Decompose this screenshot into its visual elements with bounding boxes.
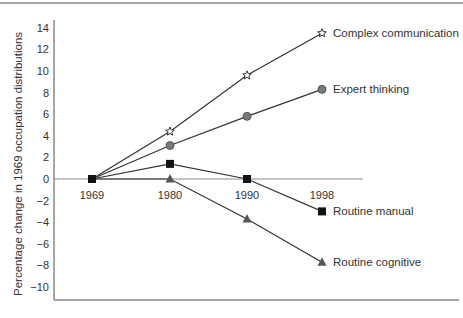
triangle-marker xyxy=(243,214,252,223)
series-expert-thinking: Expert thinking xyxy=(88,83,409,183)
y-tick-label: −10 xyxy=(30,281,49,293)
y-axis-ticks: 14121086420−2−4−6−8−10 xyxy=(30,22,49,293)
series-line xyxy=(92,179,322,262)
x-axis-labels: 1969198019901998 xyxy=(80,189,334,201)
series-label: Expert thinking xyxy=(333,83,409,95)
x-tick-label: 1980 xyxy=(158,189,182,201)
y-tick-label: 2 xyxy=(43,151,49,163)
origin-marker xyxy=(88,175,96,183)
series-label: Routine manual xyxy=(333,205,414,217)
series-label: Complex communication xyxy=(333,27,459,39)
series-lines: Complex communicationExpert thinkingRout… xyxy=(88,27,459,268)
y-tick-label: −4 xyxy=(36,216,49,228)
square-marker xyxy=(318,207,326,215)
y-tick-label: −2 xyxy=(36,195,49,207)
circle-marker xyxy=(166,142,174,150)
line-chart: 14121086420−2−4−6−8−10 1969198019901998 … xyxy=(0,0,463,318)
star-marker xyxy=(318,29,327,37)
circle-marker xyxy=(318,85,326,93)
y-tick-label: 0 xyxy=(43,173,49,185)
y-tick-label: 8 xyxy=(43,87,49,99)
circle-marker xyxy=(243,112,251,120)
triangle-marker xyxy=(166,174,175,183)
y-axis-label: Percentage change in 1969 occupation dis… xyxy=(12,32,24,296)
series-line xyxy=(92,89,322,179)
series-complex-communication: Complex communication xyxy=(88,27,459,183)
y-tick-label: 12 xyxy=(37,43,49,55)
series-line xyxy=(92,33,322,179)
series-label: Routine cognitive xyxy=(333,256,421,268)
x-tick-label: 1990 xyxy=(235,189,259,201)
y-tick-label: 4 xyxy=(43,130,49,142)
square-marker xyxy=(243,175,251,183)
y-tick-label: 6 xyxy=(43,108,49,120)
triangle-marker xyxy=(318,257,327,266)
y-tick-label: 14 xyxy=(37,22,49,34)
y-tick-label: 10 xyxy=(37,65,49,77)
y-tick-label: −8 xyxy=(36,259,49,271)
series-line xyxy=(92,164,322,212)
y-tick-label: −6 xyxy=(36,238,49,250)
square-marker xyxy=(166,160,174,168)
x-tick-label: 1998 xyxy=(310,189,334,201)
x-tick-label: 1969 xyxy=(80,189,104,201)
